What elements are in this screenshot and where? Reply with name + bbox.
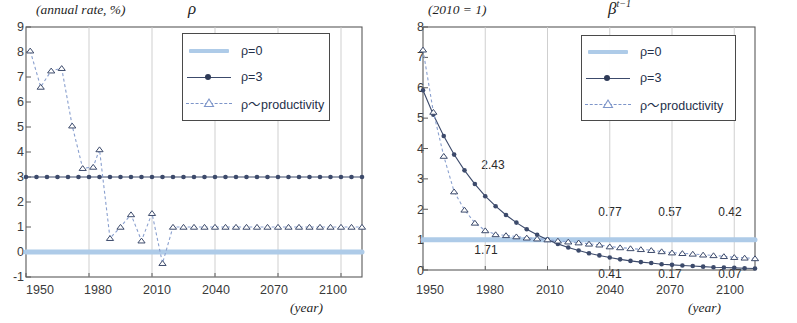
rho0-line-icon [183,44,235,58]
left-legend-item-productivity: ρ～productivity [183,92,329,114]
right-legend-item-productivity: ρ～productivity [582,93,735,115]
left-legend-label-rho0: ρ=0 [235,44,262,58]
right-legend-label-rho3: ρ=3 [634,71,661,85]
right-legend-label-productivity: ρ～productivity [634,95,723,114]
productivity-line-icon [183,96,235,110]
right-legend-label-rho0: ρ=0 [634,45,661,59]
left-legend-item-rho3: ρ=3 [183,66,329,88]
left-legend-label-productivity: ρ～productivity [235,94,324,113]
rho3-line-icon [183,70,235,84]
left-chart-panel: (annual rate, %) ρ 9 8 7 6 5 4 3 2 1 0 -… [0,0,398,323]
right-chart-panel: (2010 = 1) βt−1 8 7 6 5 4 3 2 1 0 1950 1… [398,0,797,323]
left-legend-item-rho0: ρ=0 [183,40,329,62]
right-legend: ρ=0 ρ=3 ρ～productivity [581,35,736,121]
productivity-line-icon [582,97,634,111]
rho3-line-icon [582,71,634,85]
figure-root: (annual rate, %) ρ 9 8 7 6 5 4 3 2 1 0 -… [0,0,797,323]
rho0-line-icon [582,45,634,59]
right-legend-item-rho0: ρ=0 [582,41,735,63]
right-legend-item-rho3: ρ=3 [582,67,735,89]
left-legend-label-rho3: ρ=3 [235,70,262,84]
left-legend: ρ=0 ρ=3 ρ～productivity [182,33,330,121]
